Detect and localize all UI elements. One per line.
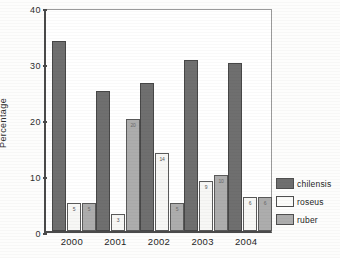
bar-value-label: 5 xyxy=(88,206,91,212)
legend-swatch-chilensis xyxy=(276,178,294,189)
legend-label: roseus xyxy=(297,197,324,207)
bar-ruber-2003: 10 xyxy=(214,175,228,231)
bar-value-label: 10 xyxy=(218,178,223,184)
bar-ruber-2002: 5 xyxy=(170,203,184,231)
y-axis-tick-label: 40 xyxy=(4,5,46,15)
bar-group: 55 xyxy=(52,10,96,231)
bar-roseus-2002: 14 xyxy=(155,153,169,231)
bar-chilensis-2004 xyxy=(228,63,242,231)
x-axis-label-2001: 2001 xyxy=(94,236,138,254)
bar-chilensis-2003 xyxy=(184,60,198,231)
y-axis-tick-label: 30 xyxy=(4,61,46,71)
bar-value-label: 5 xyxy=(73,206,76,212)
y-axis-title: Percentage xyxy=(0,98,8,148)
bar-chilensis-2000 xyxy=(52,41,66,231)
x-axis-label-2002: 2002 xyxy=(137,236,181,254)
y-axis-tick-label: 20 xyxy=(4,117,46,127)
legend-item-roseus[interactable]: roseus xyxy=(276,196,338,207)
bar-group: 910 xyxy=(184,10,228,231)
y-axis-tick-mark xyxy=(43,233,47,235)
bar-value-label: 6 xyxy=(264,200,267,206)
legend-label: ruber xyxy=(297,215,318,225)
x-axis-label-2003: 2003 xyxy=(181,236,225,254)
bar-ruber-2004: 6 xyxy=(258,197,272,231)
plot-area: 010203040 5532014591066 xyxy=(44,9,272,233)
x-axis-labels: 20002001200220032004 xyxy=(44,236,272,254)
bar-roseus-2004: 6 xyxy=(243,197,257,231)
bar-value-label: 5 xyxy=(176,206,179,212)
y-axis-tick-label: 0 xyxy=(4,229,46,239)
legend-label: chilensis xyxy=(297,179,331,189)
chart-legend: chilensisroseusruber xyxy=(276,178,338,225)
bar-roseus-2000: 5 xyxy=(67,203,81,231)
x-axis-label-2000: 2000 xyxy=(50,236,94,254)
bar-chilensis-2002 xyxy=(140,83,154,231)
bar-value-label: 9 xyxy=(205,184,208,190)
bar-chilensis-2001 xyxy=(96,91,110,231)
bar-value-label: 3 xyxy=(117,217,120,223)
bar-group: 66 xyxy=(228,10,272,231)
bar-value-label: 6 xyxy=(249,200,252,206)
bar-chart: 010203040 5532014591066 Percentage 20002… xyxy=(0,0,340,258)
y-axis-tick-label: 10 xyxy=(4,173,46,183)
legend-swatch-ruber xyxy=(276,214,294,225)
bar-roseus-2001: 3 xyxy=(111,214,125,231)
x-axis-label-2004: 2004 xyxy=(224,236,268,254)
legend-item-chilensis[interactable]: chilensis xyxy=(276,178,338,189)
bar-ruber-2000: 5 xyxy=(82,203,96,231)
bar-roseus-2003: 9 xyxy=(199,181,213,231)
bar-value-label: 20 xyxy=(130,122,135,128)
bar-group: 145 xyxy=(140,10,184,231)
bar-group: 320 xyxy=(96,10,140,231)
bar-ruber-2001: 20 xyxy=(126,119,140,231)
legend-swatch-roseus xyxy=(276,196,294,207)
legend-item-ruber[interactable]: ruber xyxy=(276,214,338,225)
bar-value-label: 14 xyxy=(159,156,164,162)
bar-groups: 5532014591066 xyxy=(46,10,271,231)
